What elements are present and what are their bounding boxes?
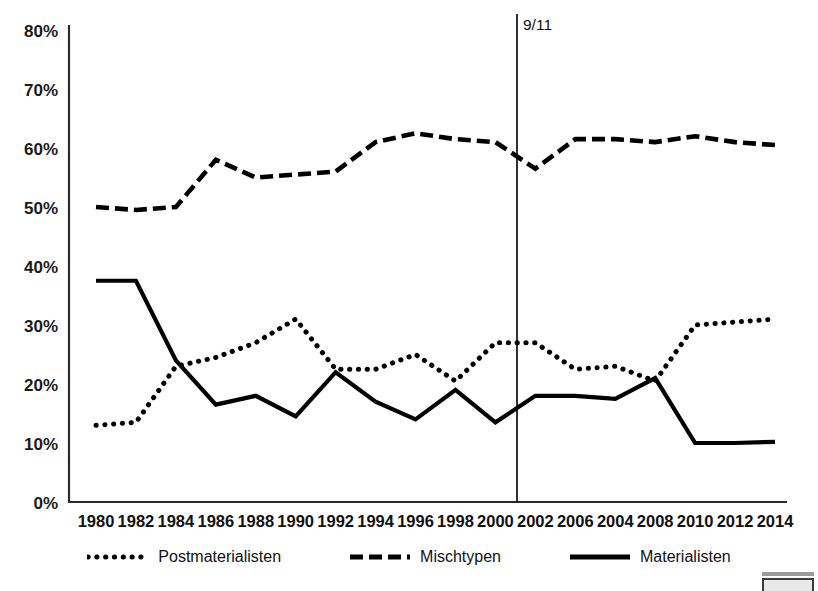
y-tick-70: 70% bbox=[24, 81, 58, 100]
legend-swatch-dotted bbox=[87, 550, 149, 564]
x-tick-1994: 1994 bbox=[357, 512, 395, 530]
legend-item-materialisten[interactable]: Materialisten bbox=[569, 548, 731, 566]
x-tick-1998: 1998 bbox=[437, 512, 474, 530]
y-tick-60: 60% bbox=[24, 140, 58, 159]
y-tick-10: 10% bbox=[24, 435, 58, 454]
chart-axes bbox=[69, 25, 787, 502]
corner-artifact-box bbox=[762, 578, 814, 591]
x-tick-1990: 1990 bbox=[277, 512, 314, 530]
x-tick-2008: 2008 bbox=[637, 512, 674, 530]
x-tick-2004: 2004 bbox=[597, 512, 635, 530]
x-tick-2010: 2010 bbox=[677, 512, 714, 530]
x-axis-tick-labels: 1980198219841986198819901992199419961998… bbox=[78, 512, 795, 530]
x-tick-2002: 2002 bbox=[517, 512, 554, 530]
legend-label-postmaterialisten: Postmaterialisten bbox=[158, 548, 281, 566]
x-tick-2006: 2006 bbox=[557, 512, 594, 530]
y-tick-20: 20% bbox=[24, 376, 58, 395]
x-tick-1980: 1980 bbox=[78, 512, 115, 530]
legend-item-postmaterialisten[interactable]: Postmaterialisten bbox=[87, 548, 281, 566]
line-chart-plot: 80% 70% 60% 50% 40% 30% 20% 10% 0% 9/11 … bbox=[0, 0, 818, 591]
corner-artifact-bar bbox=[762, 572, 814, 576]
x-tick-1982: 1982 bbox=[118, 512, 155, 530]
y-tick-40: 40% bbox=[24, 258, 58, 277]
event-marker-label-911: 9/11 bbox=[523, 16, 552, 33]
y-axis-tick-labels: 80% 70% 60% 50% 40% 30% 20% 10% 0% bbox=[24, 22, 58, 513]
x-tick-2012: 2012 bbox=[717, 512, 754, 530]
legend-label-materialisten: Materialisten bbox=[640, 548, 731, 566]
y-tick-30: 30% bbox=[24, 317, 58, 336]
x-tick-2000: 2000 bbox=[477, 512, 514, 530]
x-tick-2014: 2014 bbox=[757, 512, 795, 530]
legend-item-mischtypen[interactable]: Mischtypen bbox=[349, 548, 501, 566]
series-line-mischtypen bbox=[96, 133, 775, 210]
x-tick-1992: 1992 bbox=[317, 512, 354, 530]
legend-label-mischtypen: Mischtypen bbox=[420, 548, 501, 566]
y-tick-0: 0% bbox=[33, 494, 58, 513]
x-tick-1984: 1984 bbox=[158, 512, 196, 530]
x-tick-1996: 1996 bbox=[397, 512, 434, 530]
x-tick-1988: 1988 bbox=[237, 512, 274, 530]
chart-container: 80% 70% 60% 50% 40% 30% 20% 10% 0% 9/11 … bbox=[0, 0, 818, 591]
legend-swatch-solid bbox=[569, 550, 631, 564]
chart-legend: Postmaterialisten Mischtypen Materialist… bbox=[0, 548, 818, 566]
x-tick-1986: 1986 bbox=[197, 512, 234, 530]
y-tick-50: 50% bbox=[24, 199, 58, 218]
y-tick-80: 80% bbox=[24, 22, 58, 41]
legend-swatch-dashed bbox=[349, 550, 411, 564]
